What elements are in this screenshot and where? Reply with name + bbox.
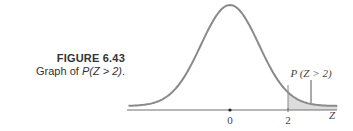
tick-mark-0 <box>228 108 231 111</box>
normal-curve-graph: 0 2 Z P (Z > 2) <box>0 0 353 131</box>
tick-label-2: 2 <box>285 114 291 126</box>
shaded-tail-region <box>288 92 337 110</box>
tick-label-0: 0 <box>227 114 233 126</box>
axis-label-z: Z <box>329 109 336 121</box>
tail-probability-label: P (Z > 2) <box>289 67 331 80</box>
normal-density-curve <box>129 5 338 106</box>
